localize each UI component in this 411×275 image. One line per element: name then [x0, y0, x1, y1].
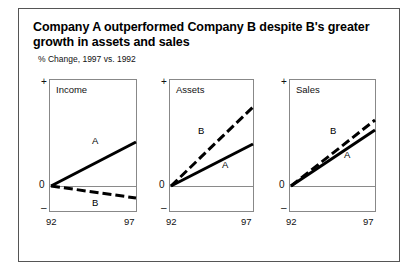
- series-lines-assets: [170, 80, 255, 213]
- plus-sign-sales: +: [281, 77, 287, 87]
- series-lines-sales: [290, 80, 377, 213]
- chart-subtitle: % Change, 1997 vs. 1992: [38, 54, 136, 64]
- series-lines-income: [50, 80, 138, 213]
- xtick-start-assets: 92: [166, 217, 177, 227]
- series-line-a-assets: [171, 144, 253, 186]
- minus-sign-assets: –: [161, 203, 167, 213]
- chart-panel-assets: Assets B A: [169, 79, 254, 212]
- minus-sign-sales: –: [281, 203, 287, 213]
- figure-frame: Company A outperformed Company B despite…: [18, 8, 400, 262]
- chart-panel-income: Income A B: [49, 79, 137, 212]
- plus-sign-income: +: [41, 77, 47, 87]
- zero-label-income: 0: [39, 180, 45, 190]
- xtick-start-income: 92: [46, 217, 57, 227]
- plus-sign-assets: +: [161, 77, 167, 87]
- series-label-b-sales: B: [330, 126, 336, 136]
- series-line-b-assets: [171, 107, 253, 186]
- zero-label-sales: 0: [279, 180, 285, 190]
- xtick-end-income: 97: [124, 217, 135, 227]
- page-title: Company A outperformed Company B despite…: [33, 20, 383, 50]
- xtick-end-assets: 97: [241, 217, 252, 227]
- xtick-start-sales: 92: [286, 217, 297, 227]
- minus-sign-income: –: [41, 203, 47, 213]
- series-label-a-assets: A: [222, 160, 228, 170]
- series-line-a-income: [51, 142, 136, 186]
- zero-label-assets: 0: [159, 180, 165, 190]
- chart-panel-sales: Sales B A: [289, 79, 376, 212]
- xtick-end-sales: 97: [363, 217, 374, 227]
- series-label-a-sales: A: [344, 150, 350, 160]
- series-label-b-assets: B: [198, 126, 204, 136]
- series-label-b-income: B: [92, 198, 98, 208]
- series-label-a-income: A: [92, 136, 98, 146]
